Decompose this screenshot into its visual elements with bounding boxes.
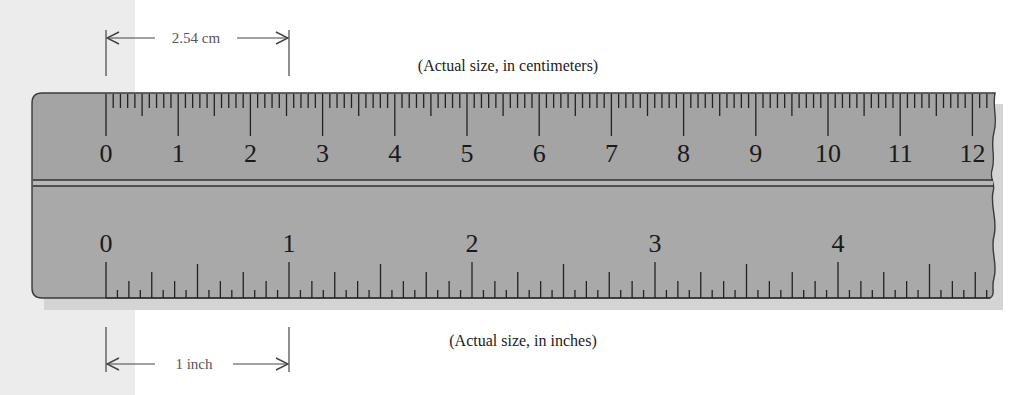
inch-label: 1 bbox=[283, 229, 296, 258]
cm-label: 9 bbox=[749, 139, 762, 168]
caption-centimeters: (Actual size, in centimeters) bbox=[418, 57, 598, 75]
cm-label: 7 bbox=[605, 139, 618, 168]
cm-label: 0 bbox=[100, 139, 113, 168]
inch-dimension-label: 1 inch bbox=[175, 356, 213, 372]
cm-label: 11 bbox=[888, 139, 913, 168]
cm-label: 8 bbox=[677, 139, 690, 168]
cm-label: 1 bbox=[172, 139, 185, 168]
inch-dimension-marker: 1 inch bbox=[106, 327, 289, 372]
inch-label: 2 bbox=[466, 229, 479, 258]
cm-label: 3 bbox=[316, 139, 329, 168]
cm-label: 6 bbox=[533, 139, 546, 168]
cm-dimension-marker: 2.54 cm bbox=[106, 30, 289, 76]
cm-dimension-label: 2.54 cm bbox=[172, 30, 221, 46]
cm-label: 5 bbox=[461, 139, 474, 168]
ruler-diagram: 2.54 cm (Actual size, in centimeters) 01… bbox=[0, 0, 1026, 395]
inch-label: 0 bbox=[100, 229, 113, 258]
inch-label: 3 bbox=[649, 229, 662, 258]
cm-label: 4 bbox=[388, 139, 401, 168]
cm-label: 2 bbox=[244, 139, 257, 168]
cm-label: 12 bbox=[959, 139, 985, 168]
ruler: 0123456789101112 01234 bbox=[32, 93, 995, 298]
cm-label: 10 bbox=[815, 139, 841, 168]
caption-inches: (Actual size, in inches) bbox=[449, 332, 597, 350]
inch-label: 4 bbox=[832, 229, 845, 258]
